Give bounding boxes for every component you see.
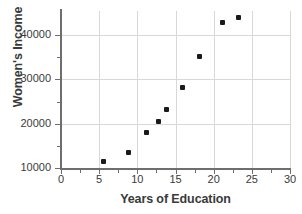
plot-area [61,11,290,168]
scatter-chart: Women's Income Years of Education 100002… [0,0,302,214]
y-tick-mark [55,124,61,125]
data-point [220,20,225,25]
x-minor-tick-mark [233,169,234,173]
data-point [236,15,241,20]
y-minor-tick-mark [57,146,61,147]
data-point [101,159,106,164]
x-minor-tick-mark [195,169,196,173]
gridline-horizontal [61,79,290,80]
y-tick-mark [55,79,61,80]
x-axis-title: Years of Education [61,192,290,206]
x-tick-label: 5 [84,173,114,185]
y-minor-tick-mark [57,102,61,103]
y-minor-tick-mark [57,57,61,58]
data-point [197,54,202,59]
y-tick-label: 10000 [5,161,51,173]
x-tick-label: 30 [275,173,302,185]
y-tick-label: 30000 [5,72,51,84]
x-minor-tick-mark [271,169,272,173]
data-point [180,85,185,90]
x-tick-label: 20 [199,173,229,185]
gridline-horizontal [61,35,290,36]
data-point [164,107,169,112]
x-minor-tick-mark [118,169,119,173]
x-tick-label: 0 [46,173,76,185]
y-axis-title: Women's Income [11,0,25,132]
x-tick-label: 25 [237,173,267,185]
gridline-vertical [290,11,291,168]
x-minor-tick-mark [80,169,81,173]
y-tick-mark [55,35,61,36]
x-tick-label: 15 [161,173,191,185]
y-tick-label: 20000 [5,117,51,129]
data-point [126,150,131,155]
gridline-horizontal [61,124,290,125]
data-point [144,130,149,135]
x-minor-tick-mark [156,169,157,173]
data-point [156,119,161,124]
x-tick-label: 10 [122,173,152,185]
y-tick-label: 40000 [5,28,51,40]
